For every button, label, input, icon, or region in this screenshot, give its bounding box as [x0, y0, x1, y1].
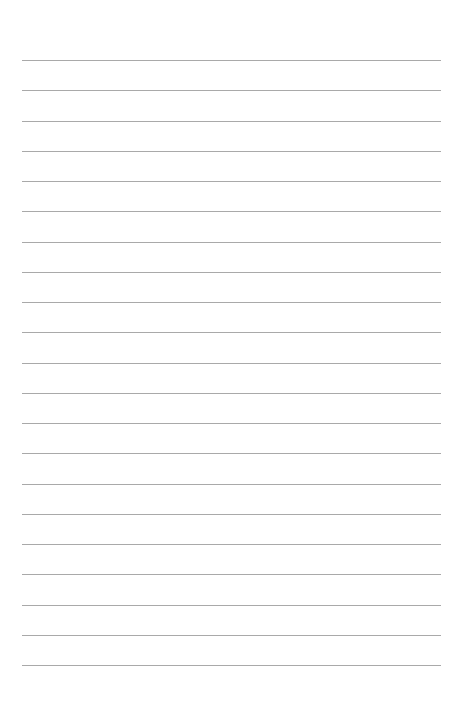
ruled-line	[22, 211, 441, 212]
ruled-line	[22, 514, 441, 515]
ruled-line	[22, 242, 441, 243]
ruled-line	[22, 151, 441, 152]
ruled-line	[22, 453, 441, 454]
ruled-line	[22, 574, 441, 575]
ruled-line	[22, 605, 441, 606]
ruled-line	[22, 423, 441, 424]
ruled-line	[22, 90, 441, 91]
ruled-line	[22, 635, 441, 636]
lined-paper-page	[0, 0, 461, 708]
ruled-line	[22, 332, 441, 333]
ruled-line	[22, 272, 441, 273]
ruled-line	[22, 393, 441, 394]
ruled-line	[22, 665, 441, 666]
ruled-line	[22, 121, 441, 122]
ruled-line	[22, 363, 441, 364]
ruled-line	[22, 544, 441, 545]
ruled-line	[22, 60, 441, 61]
ruled-line	[22, 302, 441, 303]
ruled-line	[22, 181, 441, 182]
ruled-line	[22, 484, 441, 485]
